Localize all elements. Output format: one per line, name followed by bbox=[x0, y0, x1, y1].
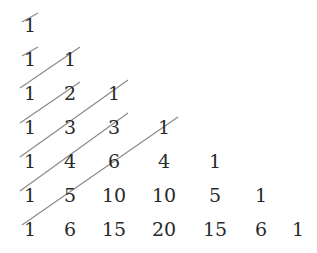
triangle-cell: 1 bbox=[64, 50, 76, 69]
pascal-triangle-diagram: 111121133114641151010511615201561 bbox=[0, 0, 317, 253]
triangle-cell: 6 bbox=[255, 220, 267, 239]
triangle-cell: 15 bbox=[203, 220, 227, 239]
triangle-cell: 1 bbox=[24, 118, 36, 137]
triangle-cell: 5 bbox=[64, 186, 76, 205]
triangle-cell: 1 bbox=[108, 84, 120, 103]
triangle-cell: 3 bbox=[108, 118, 120, 137]
triangle-cell: 1 bbox=[292, 220, 304, 239]
triangle-cell: 10 bbox=[102, 186, 126, 205]
triangle-cell: 1 bbox=[24, 84, 36, 103]
triangle-cell: 3 bbox=[64, 118, 76, 137]
triangle-cell: 1 bbox=[24, 50, 36, 69]
triangle-cell: 15 bbox=[102, 220, 126, 239]
triangle-cell: 1 bbox=[209, 152, 221, 171]
triangle-cell: 4 bbox=[64, 152, 76, 171]
triangle-cell: 10 bbox=[152, 186, 176, 205]
triangle-cell: 2 bbox=[64, 84, 76, 103]
triangle-cell: 1 bbox=[24, 152, 36, 171]
triangle-cell: 1 bbox=[24, 220, 36, 239]
triangle-cell: 5 bbox=[209, 186, 221, 205]
triangle-cell: 6 bbox=[108, 152, 120, 171]
triangle-cell: 4 bbox=[158, 152, 170, 171]
triangle-cell: 1 bbox=[24, 16, 36, 35]
triangle-cell: 6 bbox=[64, 220, 76, 239]
triangle-cell: 1 bbox=[24, 186, 36, 205]
triangle-cell: 1 bbox=[158, 118, 170, 137]
triangle-cell: 20 bbox=[152, 220, 176, 239]
triangle-cell: 1 bbox=[255, 186, 267, 205]
